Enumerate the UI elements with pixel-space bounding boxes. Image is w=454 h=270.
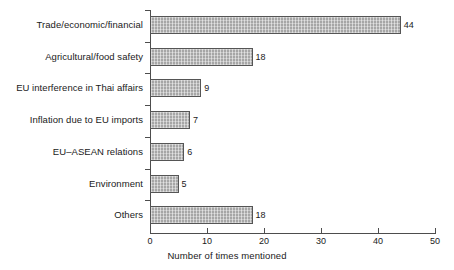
bar-1: 44 bbox=[150, 16, 441, 34]
x-axis-tick-label: 0 bbox=[135, 235, 165, 247]
bar-2: 18 bbox=[150, 48, 293, 66]
x-axis-line bbox=[150, 233, 436, 234]
bar-rect bbox=[150, 175, 179, 193]
x-axis-tick bbox=[321, 228, 322, 233]
bar-rect bbox=[150, 111, 190, 129]
bar-rect bbox=[150, 206, 253, 224]
y-axis-tick bbox=[145, 200, 150, 201]
y-axis-tick bbox=[145, 137, 150, 138]
category-label-4: Inflation due to EU imports bbox=[0, 114, 143, 126]
bar-value-label: 7 bbox=[193, 114, 198, 126]
bar-value-label: 5 bbox=[182, 178, 187, 190]
category-label-3: EU interference in Thai affairs bbox=[0, 82, 143, 94]
bar-6: 5 bbox=[150, 175, 219, 193]
x-axis-title: Number of times mentioned bbox=[0, 250, 454, 261]
bar-value-label: 18 bbox=[256, 209, 266, 221]
x-axis-tick bbox=[207, 228, 208, 233]
x-axis-tick-label: 10 bbox=[192, 235, 222, 247]
x-axis-tick-label: 50 bbox=[420, 235, 450, 247]
bar-5: 6 bbox=[150, 143, 224, 161]
y-axis-tick bbox=[145, 169, 150, 170]
y-axis-tick bbox=[145, 105, 150, 106]
bar-value-label: 44 bbox=[404, 19, 414, 31]
category-label-7: Others bbox=[0, 209, 143, 221]
bar-rect bbox=[150, 143, 184, 161]
bar-chart: Trade/economic/financialAgricultural/foo… bbox=[0, 0, 454, 270]
y-axis-tick bbox=[145, 10, 150, 11]
bar-7: 18 bbox=[150, 206, 293, 224]
x-axis-tick-label: 20 bbox=[249, 235, 279, 247]
bar-rect bbox=[150, 79, 201, 97]
y-axis-tick bbox=[145, 42, 150, 43]
bar-value-label: 6 bbox=[187, 146, 192, 158]
x-axis-tick bbox=[435, 228, 436, 233]
bar-3: 9 bbox=[150, 79, 241, 97]
x-axis-tick bbox=[378, 228, 379, 233]
bar-value-label: 18 bbox=[256, 51, 266, 63]
category-label-2: Agricultural/food safety bbox=[0, 51, 143, 63]
category-label-1: Trade/economic/financial bbox=[0, 19, 143, 31]
x-axis-tick-label: 40 bbox=[363, 235, 393, 247]
y-axis-tick bbox=[145, 73, 150, 74]
category-label-5: EU–ASEAN relations bbox=[0, 146, 143, 158]
x-axis-tick bbox=[150, 228, 151, 233]
x-axis-tick-label: 30 bbox=[306, 235, 336, 247]
bar-rect bbox=[150, 48, 253, 66]
category-label-6: Environment bbox=[0, 178, 143, 190]
bar-rect bbox=[150, 16, 401, 34]
bar-4: 7 bbox=[150, 111, 230, 129]
x-axis-tick bbox=[264, 228, 265, 233]
bar-value-label: 9 bbox=[204, 82, 209, 94]
